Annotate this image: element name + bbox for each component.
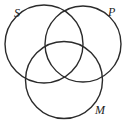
circle-m — [26, 42, 103, 119]
label-s: S — [14, 6, 20, 20]
label-m: M — [94, 103, 106, 117]
venn-diagram: S P M — [0, 0, 125, 121]
label-p: P — [107, 5, 116, 19]
